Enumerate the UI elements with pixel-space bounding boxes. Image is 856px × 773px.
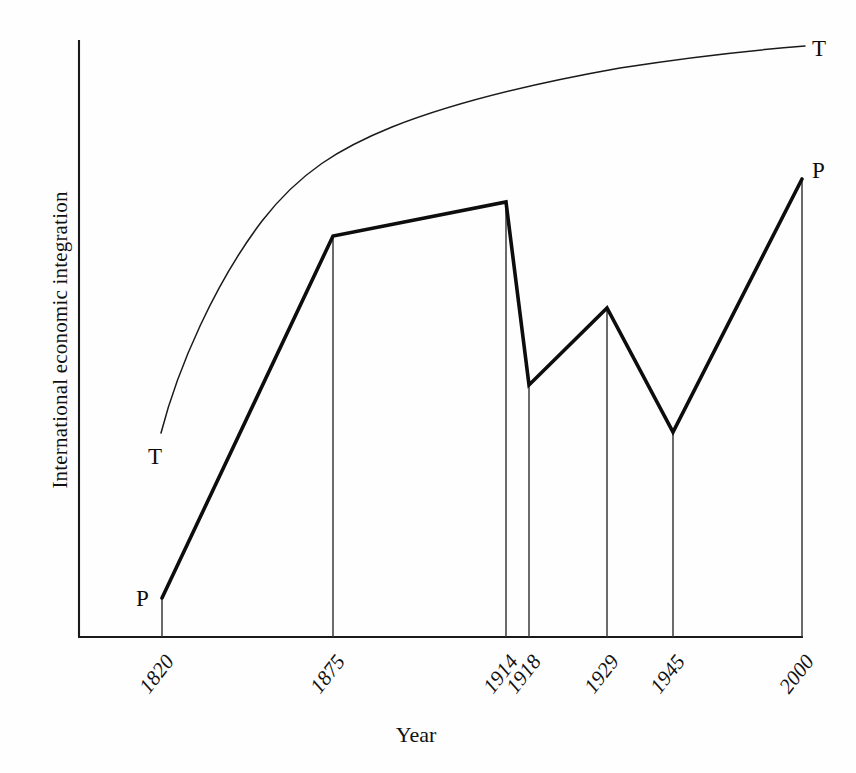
series-label-p-start: P bbox=[136, 586, 149, 612]
series-label-p-end: P bbox=[812, 158, 825, 184]
series-p-polyline bbox=[162, 179, 802, 598]
x-axis-title: Year bbox=[336, 722, 496, 748]
chart-plot-area bbox=[0, 0, 856, 773]
series-t-curve bbox=[161, 46, 805, 433]
droplines-group bbox=[162, 179, 802, 637]
series-label-t-end: T bbox=[812, 36, 826, 62]
chart-figure: P T T P 1820 1875 1914 1918 1929 1945 20… bbox=[0, 0, 856, 773]
y-axis-title: International economic integration bbox=[40, 130, 80, 550]
series-label-t-start: T bbox=[148, 444, 162, 470]
